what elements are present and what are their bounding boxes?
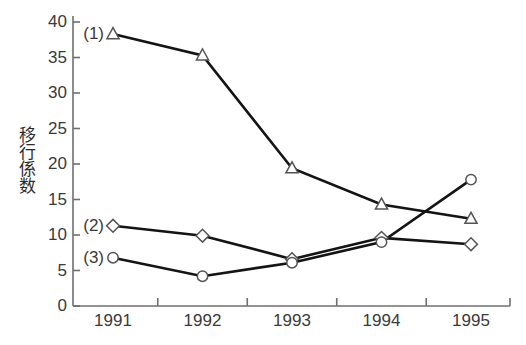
series-lines	[113, 34, 471, 276]
marker-diamond	[465, 238, 478, 251]
series-markers	[107, 28, 478, 282]
marker-circle	[287, 257, 297, 267]
line-chart: 移行係数 0510152025303540 199119921993199419…	[0, 0, 526, 345]
marker-diamond	[107, 219, 120, 232]
marker-circle	[108, 253, 118, 263]
marker-circle	[197, 271, 207, 281]
marker-circle	[376, 237, 386, 247]
marker-triangle	[107, 28, 119, 39]
marker-circle	[466, 174, 476, 184]
plot-area	[0, 0, 526, 345]
series-line	[113, 34, 471, 219]
marker-diamond	[196, 229, 209, 242]
